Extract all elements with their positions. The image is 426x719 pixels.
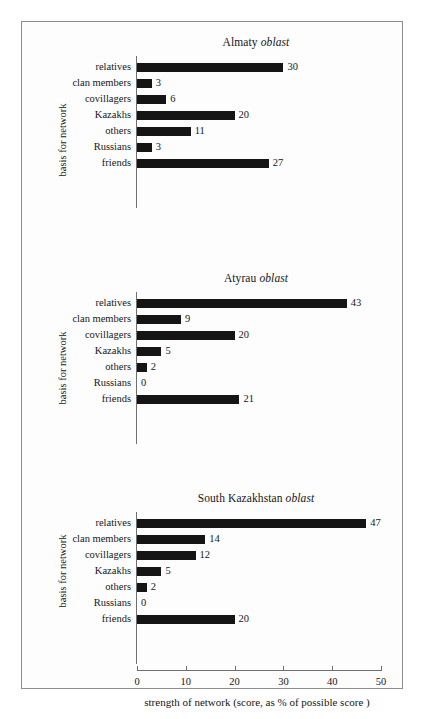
category-label: clan members [72,533,131,544]
bar-row: friends27 [137,156,381,172]
panel-title-region: Atyrau [224,272,257,284]
bar-value: 5 [165,565,170,576]
plot-area-south-kazakhstan: relatives47 clan members14 covillagers12… [137,516,381,634]
bar-row: Russians3 [137,140,381,156]
category-label: others [105,125,131,136]
bar-value: 43 [351,297,362,308]
bar [137,143,152,152]
x-axis-tick [186,666,187,671]
bar-row: friends20 [137,612,381,628]
bar-row: others2 [137,580,381,596]
bar-value: 3 [156,141,161,152]
category-label: relatives [95,297,131,308]
panel-title-oblast: oblast [261,36,290,48]
x-axis-tick [381,666,382,671]
x-axis-tick-label: 50 [376,676,387,687]
bar-row: Russians0 [137,376,381,392]
bar-value: 2 [151,581,156,592]
bar-value: 20 [239,109,250,120]
y-axis-label: basis for network [57,332,68,405]
bar [137,127,191,136]
chart-panel-south-kazakhstan: South Kazakhstan oblast basis for networ… [22,478,404,690]
category-label: Russians [94,377,131,388]
bar-value: 30 [287,61,298,72]
bar-value: 47 [370,517,381,528]
panel-title: Atyrau oblast [22,272,404,284]
bar-row: covillagers6 [137,92,381,108]
category-label: friends [102,613,131,624]
panel-title-region: Almaty [223,36,258,48]
x-axis: 01020304050 strength of network (score, … [137,670,381,719]
bar [137,347,161,356]
x-axis-tick-label: 30 [278,676,289,687]
bar-value: 12 [200,549,211,560]
bar-value: 3 [156,77,161,88]
panel-title: Almaty oblast [22,36,404,48]
category-label: relatives [95,517,131,528]
category-label: clan members [72,313,131,324]
bar-row: clan members14 [137,532,381,548]
bar [137,111,235,120]
plot-area-almaty: relatives30 clan members3 covillagers6 K… [137,60,381,178]
bar-row: relatives47 [137,516,381,532]
category-label: Kazakhs [95,345,131,356]
bar-value: 0 [141,597,146,608]
bar-row: relatives43 [137,296,381,312]
x-axis-tick [332,666,333,671]
category-label: Kazakhs [95,109,131,120]
x-axis-line [137,670,381,671]
bar [137,363,147,372]
chart-panel-atyrau: Atyrau oblast basis for network relative… [22,258,404,478]
panel-title: South Kazakhstan oblast [22,492,404,504]
bar-row: Kazakhs20 [137,108,381,124]
x-axis-label: strength of network (score, as % of poss… [27,696,426,708]
bar [137,519,366,528]
category-label: Kazakhs [95,565,131,576]
bar-value: 9 [185,313,190,324]
bar [137,567,161,576]
bar-value: 21 [243,393,254,404]
x-axis-tick [137,666,138,671]
bar [137,315,181,324]
bar-row: Kazakhs5 [137,564,381,580]
bar-value: 5 [165,345,170,356]
bar-value: 14 [209,533,220,544]
bar-row: covillagers20 [137,328,381,344]
bar-value: 6 [170,93,175,104]
bar-value: 11 [195,125,205,136]
bar-value: 27 [273,157,284,168]
bar-row: clan members9 [137,312,381,328]
category-label: others [105,361,131,372]
panel-title-region: South Kazakhstan [198,492,283,504]
x-axis-tick [283,666,284,671]
panel-title-oblast: oblast [259,272,288,284]
category-label: others [105,581,131,592]
bar-value: 2 [151,361,156,372]
category-label: covillagers [85,93,131,104]
panel-title-oblast: oblast [286,492,315,504]
plot-area-atyrau: relatives43 clan members9 covillagers20 … [137,296,381,414]
bar-value: 20 [239,613,250,624]
category-label: relatives [95,61,131,72]
x-axis-tick-label: 10 [181,676,192,687]
bar [137,615,235,624]
bar-row: clan members3 [137,76,381,92]
bar-row: covillagers12 [137,548,381,564]
bar [137,95,166,104]
bar [137,159,269,168]
bar-row: friends21 [137,392,381,408]
figure-frame: Almaty oblast basis for network relative… [21,21,403,689]
bar [137,551,196,560]
bar [137,331,235,340]
bar [137,63,283,72]
x-axis-tick-label: 20 [229,676,240,687]
bar [137,79,152,88]
y-axis-label: basis for network [57,535,68,608]
bar [137,299,347,308]
x-axis-tick [235,666,236,671]
bar [137,395,239,404]
chart-panel-almaty: Almaty oblast basis for network relative… [22,22,404,258]
bar-row: Russians0 [137,596,381,612]
bar-row: others11 [137,124,381,140]
x-axis-tick-label: 40 [327,676,338,687]
